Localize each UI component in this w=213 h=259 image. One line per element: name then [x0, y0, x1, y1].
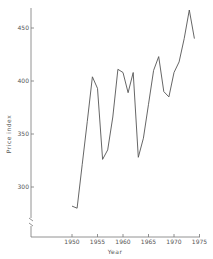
- x-tick-label: 1970: [166, 238, 181, 245]
- x-tick-label: 1965: [141, 238, 156, 245]
- x-axis: 195019551960196519701975 Year: [31, 234, 207, 255]
- price-index-line: [72, 10, 194, 208]
- x-axis-title: Year: [107, 248, 123, 255]
- y-ticks: 300350400450: [18, 24, 34, 190]
- y-tick-label: 350: [18, 130, 30, 137]
- x-tick-label: 1975: [192, 238, 207, 245]
- x-ticks: 195019551960196519701975: [64, 234, 207, 245]
- y-axis: 300350400450 Price index: [5, 8, 34, 237]
- x-tick-label: 1950: [64, 238, 79, 245]
- y-tick-label: 400: [18, 77, 30, 84]
- y-axis-break-mark: [29, 218, 33, 226]
- y-tick-label: 300: [18, 183, 30, 190]
- x-tick-label: 1960: [115, 238, 130, 245]
- x-tick-label: 1955: [90, 238, 105, 245]
- line-chart: 300350400450 Price index 195019551960196…: [0, 0, 213, 259]
- y-axis-title: Price index: [5, 115, 12, 153]
- y-tick-label: 450: [18, 24, 30, 31]
